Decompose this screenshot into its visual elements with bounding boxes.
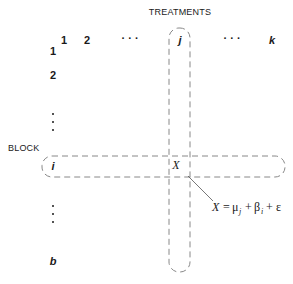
cell-observation-x: X (171, 158, 180, 172)
row-label-b: b (50, 255, 57, 267)
equation-equals: = (223, 200, 230, 214)
column-ellipsis-right: · · · (223, 32, 240, 44)
row-i-band (42, 156, 285, 177)
equation-lhs: X (211, 200, 220, 214)
row-ellipsis-upper (52, 113, 54, 131)
column-ellipsis-left: · · · (121, 32, 138, 44)
row-label-1: 1 (50, 45, 56, 57)
equation-epsilon: ε (276, 200, 281, 214)
block-axis-label: BLOCK (8, 143, 40, 153)
leader-line (188, 176, 213, 201)
column-label-1: 1 (61, 34, 67, 46)
row-label-i: i (51, 160, 55, 172)
column-label-j: j (176, 34, 182, 46)
equation-beta: β (254, 200, 260, 214)
column-label-k: k (269, 34, 276, 46)
equation-mu-subscript: j (238, 207, 242, 216)
model-equation: X = μ j + β i + ε (211, 200, 281, 216)
column-j-band (169, 28, 190, 272)
treatments-title: TREATMENTS (149, 7, 211, 17)
equation-beta-subscript: i (261, 207, 263, 216)
randomized-block-diagram: TREATMENTS 1 2 · · · j · · · k 1 2 BLOCK… (0, 0, 293, 284)
row-ellipsis-lower (52, 205, 54, 223)
column-label-2: 2 (84, 34, 90, 46)
equation-plus-1: + (245, 200, 252, 214)
equation-mu: μ (232, 200, 238, 214)
row-label-2: 2 (50, 69, 56, 81)
equation-plus-2: + (266, 200, 273, 214)
